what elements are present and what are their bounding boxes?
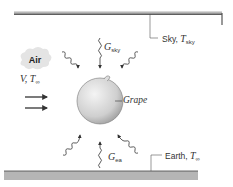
sky-surface xyxy=(14,11,222,25)
sky-label: Sky, Tsky xyxy=(162,34,195,45)
sky-radiation-arrow xyxy=(122,52,138,68)
grape-label: Grape xyxy=(123,96,147,106)
earth-radiation-arrow xyxy=(63,135,80,155)
earth-leader-line xyxy=(151,155,162,171)
sky-irradiation-label: Gsky xyxy=(104,42,120,53)
earth-radiation-arrow xyxy=(99,142,102,168)
earth-radiation-arrow xyxy=(118,135,138,153)
grape-sphere xyxy=(77,76,123,124)
air-conditions-label: V, T∞ xyxy=(20,74,40,85)
sky-leader-line xyxy=(150,14,158,38)
earth-irradiation-label: Gea xyxy=(108,152,122,163)
earth-label: Earth, T∞ xyxy=(165,151,200,162)
air-label: Air xyxy=(18,50,52,70)
earth-surface xyxy=(4,171,198,180)
sky-radiation-arrow xyxy=(62,52,78,68)
sky-radiation-arrow xyxy=(99,38,102,68)
